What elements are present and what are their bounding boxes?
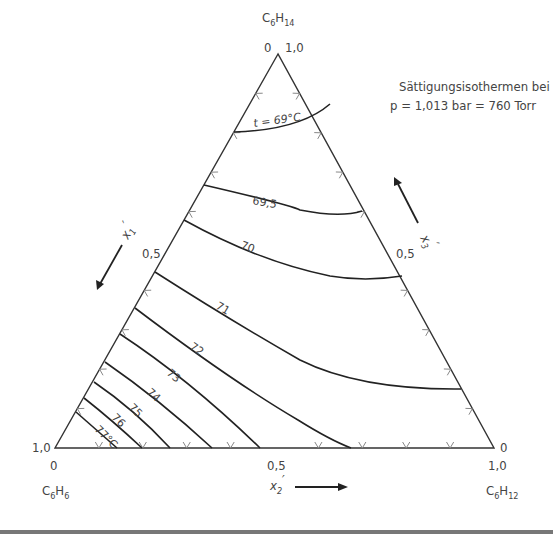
tick-mark bbox=[447, 442, 454, 448]
tick-mark bbox=[314, 133, 321, 139]
tick-mark bbox=[95, 442, 102, 448]
tick-mark bbox=[189, 211, 196, 217]
label-71: 71 bbox=[214, 299, 233, 317]
component-top: C6H14 bbox=[262, 10, 294, 28]
tick-mark bbox=[233, 133, 240, 139]
svg-text:x3′: x3′ bbox=[415, 229, 442, 254]
tick-marks bbox=[77, 93, 472, 448]
right-mid: 0,5 bbox=[396, 246, 415, 261]
x3-arrow bbox=[398, 184, 418, 223]
label-75: 75 bbox=[126, 401, 145, 420]
page-bottom-rule bbox=[0, 530, 553, 534]
tick-mark bbox=[465, 408, 472, 414]
tick-mark bbox=[403, 442, 410, 448]
x2-arrowhead bbox=[338, 483, 348, 491]
component-right: C6H12 bbox=[486, 483, 518, 501]
bl-zero: 0 bbox=[50, 458, 57, 473]
isotherm-curves bbox=[76, 104, 461, 448]
label-72: 72 bbox=[187, 340, 206, 359]
tick-mark bbox=[227, 442, 234, 448]
isotherm-labels: t = 69°C 69,5 70 71 72 73 74 75 76 77°C bbox=[92, 110, 302, 451]
label-74: 74 bbox=[144, 386, 163, 405]
svg-text:C6H12: C6H12 bbox=[486, 483, 518, 501]
svg-text:x1′: x1′ bbox=[113, 218, 140, 243]
isotherm-69-5 bbox=[204, 185, 362, 214]
bottom-mid: 0,5 bbox=[267, 458, 286, 473]
svg-text:x2′: x2′ bbox=[269, 472, 285, 496]
isotherm-70 bbox=[184, 220, 402, 279]
axis-x2: x2′ bbox=[269, 472, 348, 496]
left-mid: 0,5 bbox=[142, 246, 161, 261]
tick-mark bbox=[444, 369, 451, 375]
tick-mark bbox=[359, 442, 366, 448]
tick-mark bbox=[122, 330, 129, 336]
apex-left-zero: 0 bbox=[264, 40, 271, 55]
label-76: 76 bbox=[109, 411, 128, 430]
apex-right-one: 1,0 bbox=[285, 40, 304, 55]
isotherm-71 bbox=[155, 272, 461, 389]
ternary-diagram: t = 69°C 69,5 70 71 72 73 74 75 76 77°C … bbox=[0, 0, 553, 534]
tick-mark bbox=[256, 93, 263, 99]
br-one: 1,0 bbox=[488, 458, 507, 473]
tick-mark bbox=[183, 442, 190, 448]
bl-one: 1,0 bbox=[32, 440, 51, 455]
title-line-1: Sättigungsisothermen bei bbox=[399, 79, 550, 94]
tick-mark bbox=[144, 290, 151, 296]
br-zero: 0 bbox=[500, 440, 507, 455]
tick-mark bbox=[422, 330, 429, 336]
tick-mark bbox=[211, 172, 218, 178]
axis-x3: x3′ bbox=[394, 177, 442, 254]
svg-text:C6H6: C6H6 bbox=[42, 483, 69, 501]
tick-mark bbox=[336, 172, 343, 178]
tick-mark bbox=[100, 369, 107, 375]
tick-mark bbox=[293, 93, 300, 99]
component-left: C6H6 bbox=[42, 483, 69, 501]
label-69-5: 69,5 bbox=[251, 194, 277, 211]
x1-arrowhead bbox=[96, 280, 104, 290]
label-73: 73 bbox=[164, 366, 183, 385]
x1-arrow bbox=[100, 245, 122, 284]
tick-mark bbox=[315, 442, 322, 448]
axis-x1: x1′ bbox=[96, 218, 140, 290]
tick-mark bbox=[401, 290, 408, 296]
title-line-2: p = 1,013 bar = 760 Torr bbox=[390, 98, 536, 113]
svg-text:C6H14: C6H14 bbox=[262, 10, 294, 28]
diagram-title: Sättigungsisothermen bei p = 1,013 bar =… bbox=[390, 79, 550, 113]
